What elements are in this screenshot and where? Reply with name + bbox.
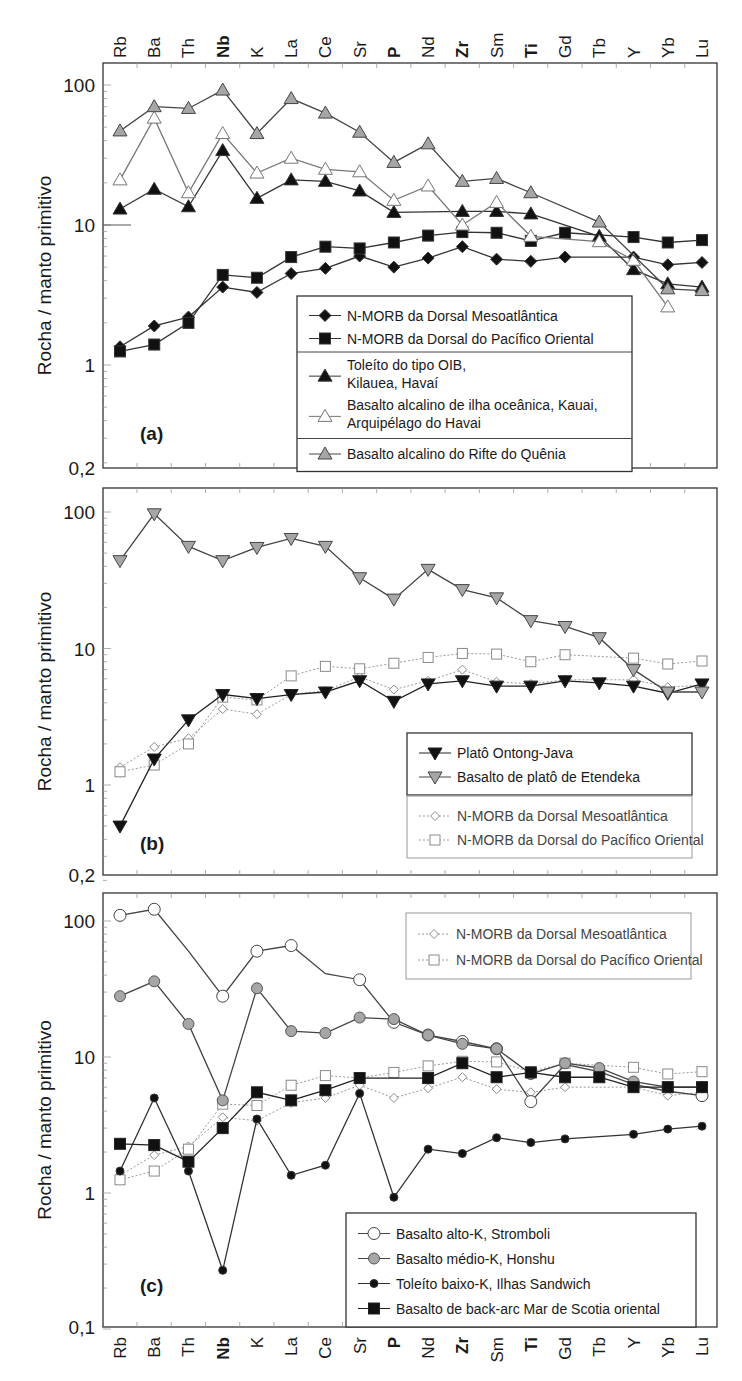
bottom-element-axis: RbBaThNbKLaCeSrPNdZrSmTiGdTbYYbLu	[111, 1336, 712, 1362]
square-marker-icon	[369, 1303, 380, 1314]
open-square-marker-icon	[115, 1175, 125, 1185]
square-marker-icon	[286, 252, 297, 263]
legend-label: Arquipélago do Havai	[347, 415, 481, 431]
open-square-marker-icon	[663, 659, 673, 669]
dot-marker-icon	[321, 1161, 329, 1169]
square-marker-icon	[662, 237, 673, 248]
triangle-up-marker-icon	[181, 101, 195, 113]
open-diamond-marker-icon	[150, 1151, 159, 1160]
open-square-marker-icon	[492, 649, 502, 659]
element-label-th: Th	[179, 38, 198, 58]
element-label-nb: Nb	[214, 1337, 233, 1360]
circle-marker-icon	[457, 1038, 468, 1049]
square-marker-icon	[423, 1073, 434, 1084]
circle-marker-icon	[369, 1253, 380, 1264]
triangle-down-marker-icon	[421, 679, 435, 691]
dot-marker-icon	[150, 1094, 158, 1102]
element-label-rb: Rb	[111, 36, 130, 58]
legend-label: N-MORB da Dorsal Mesoatlântica	[456, 926, 667, 942]
open-square-marker-icon	[252, 1100, 262, 1110]
element-label-nd: Nd	[419, 1337, 438, 1359]
square-marker-icon	[457, 1058, 468, 1069]
open-diamond-marker-icon	[218, 705, 227, 714]
legend-label: Toleíto do tipo OIB,	[347, 357, 466, 373]
triangle-up-marker-icon	[318, 106, 332, 118]
circle-marker-icon	[149, 976, 160, 987]
square-marker-icon	[423, 230, 434, 241]
square-marker-icon	[320, 241, 331, 252]
element-label-gd: Gd	[556, 35, 575, 58]
circle-marker-icon	[115, 991, 126, 1002]
circle-marker-icon	[354, 1012, 365, 1023]
element-label-sr: Sr	[351, 1337, 370, 1354]
element-label-ti: Ti	[522, 43, 541, 58]
series-basalto-de-plat-de-etendeka	[113, 509, 709, 699]
y-tick-label: 100	[63, 75, 95, 96]
diamond-marker-icon	[422, 252, 434, 264]
triangle-down-marker-icon	[490, 681, 504, 693]
triangle-down-marker-icon	[387, 594, 401, 606]
panel-a: 1001010,2Rocha / manto primitivo(a)N-MOR…	[34, 63, 717, 479]
element-label-gd: Gd	[556, 1337, 575, 1360]
open-square-marker-icon	[286, 671, 296, 681]
series-tole-to-do-tipo-oib-kilauea-hava-	[113, 144, 709, 293]
square-marker-icon	[183, 1156, 194, 1167]
series-line	[120, 90, 702, 291]
legend-box: N-MORB da Dorsal MesoatlânticaN-MORB da …	[297, 296, 632, 472]
dot-marker-icon	[219, 1266, 227, 1274]
triangle-up-marker-icon	[147, 182, 161, 194]
circle-marker-icon	[183, 1018, 194, 1029]
diamond-marker-icon	[696, 256, 708, 268]
open-square-marker-icon	[492, 1057, 502, 1067]
legend-label: Basalto de platô de Etendeka	[457, 769, 640, 785]
y-tick-label: 10	[74, 639, 95, 660]
element-label-nd: Nd	[419, 36, 438, 58]
diamond-marker-icon	[319, 262, 331, 274]
open-square-marker-icon	[629, 1062, 639, 1072]
open-circle-marker-icon	[148, 903, 160, 915]
square-marker-icon	[320, 1085, 331, 1096]
square-marker-icon	[491, 227, 502, 238]
y-tick-label: 0,1	[69, 1317, 95, 1338]
element-label-ce: Ce	[316, 1337, 335, 1359]
open-diamond-marker-icon	[458, 1073, 467, 1082]
square-marker-icon	[251, 272, 262, 283]
dot-marker-icon	[184, 1167, 192, 1175]
square-marker-icon	[320, 333, 331, 344]
y-tick-label: 1	[84, 1183, 95, 1204]
open-circle-marker-icon	[114, 909, 126, 921]
y-tick-label: 10	[74, 1047, 95, 1068]
element-label-y: Y	[625, 47, 644, 58]
triangle-down-marker-icon	[661, 687, 675, 699]
dot-marker-icon	[664, 1125, 672, 1133]
open-square-marker-icon	[320, 661, 330, 671]
open-circle-marker-icon	[217, 990, 229, 1002]
circle-marker-icon	[251, 983, 262, 994]
open-square-marker-icon	[183, 1144, 193, 1154]
y-tick-label: 1	[84, 355, 95, 376]
triangle-up-marker-icon	[455, 204, 469, 216]
series-line	[120, 981, 702, 1100]
open-square-marker-icon	[423, 1061, 433, 1071]
open-square-marker-icon	[560, 650, 570, 660]
open-square-marker-icon	[663, 1069, 673, 1079]
square-marker-icon	[388, 237, 399, 248]
open-diamond-marker-icon	[424, 1084, 433, 1093]
legend-label: N-MORB da Dorsal Mesoatlântica	[347, 308, 558, 324]
y-tick-label: 0,2	[69, 865, 95, 886]
square-marker-icon	[628, 232, 639, 243]
square-marker-icon	[697, 1082, 708, 1093]
triangle-up-marker-icon	[113, 124, 127, 136]
dot-marker-icon	[116, 1167, 124, 1175]
diamond-marker-icon	[662, 259, 674, 271]
spider-diagram-figure: RbBaThNbKLaCeSrPNdZrSmTiGdTbYYbLu 100101…	[0, 0, 742, 1381]
element-label-la: La	[282, 39, 301, 58]
panel-c: 1001010,1Rocha / manto primitivo(c)N-MOR…	[34, 893, 717, 1338]
multi-element-spider-diagram: RbBaThNbKLaCeSrPNdZrSmTiGdTbYYbLu 100101…	[0, 0, 742, 1381]
dot-marker-icon	[698, 1122, 706, 1130]
series-basalto-de-back-arc-mar-de-scotia-oriental	[115, 1058, 708, 1167]
circle-marker-icon	[320, 1028, 331, 1039]
triangle-up-marker-icon	[661, 300, 675, 312]
dot-marker-icon	[424, 1145, 432, 1153]
legend-label: N-MORB da Dorsal Mesoatlântica	[457, 808, 668, 824]
